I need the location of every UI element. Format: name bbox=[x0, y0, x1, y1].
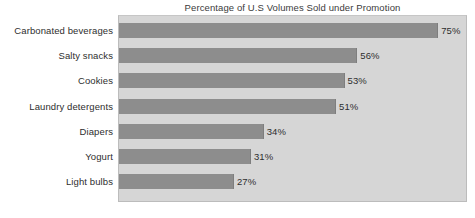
bar-value-label: 51% bbox=[339, 98, 358, 115]
bar bbox=[119, 48, 357, 63]
chart-row: Salty snacks56% bbox=[0, 47, 475, 64]
category-label: Yogurt bbox=[0, 148, 113, 165]
bar bbox=[119, 23, 438, 38]
bar bbox=[119, 124, 264, 139]
chart-row: Light bulbs27% bbox=[0, 173, 475, 190]
category-label: Salty snacks bbox=[0, 47, 113, 64]
bar bbox=[119, 149, 251, 164]
bar-value-label: 31% bbox=[254, 148, 273, 165]
bar bbox=[119, 73, 345, 88]
bar-value-label: 56% bbox=[360, 47, 379, 64]
chart-row: Cookies53% bbox=[0, 72, 475, 89]
bar-chart: Percentage of U.S Volumes Sold under Pro… bbox=[0, 0, 475, 218]
category-label: Diapers bbox=[0, 123, 113, 140]
bar bbox=[119, 99, 336, 114]
chart-row: Yogurt31% bbox=[0, 148, 475, 165]
bar-value-label: 27% bbox=[237, 173, 256, 190]
bar-value-label: 53% bbox=[348, 72, 367, 89]
chart-row: Laundry detergents51% bbox=[0, 98, 475, 115]
chart-row: Diapers34% bbox=[0, 123, 475, 140]
category-label: Laundry detergents bbox=[0, 98, 113, 115]
category-label: Cookies bbox=[0, 72, 113, 89]
category-label: Light bulbs bbox=[0, 173, 113, 190]
chart-row: Carbonated beverages75% bbox=[0, 22, 475, 39]
chart-title: Percentage of U.S Volumes Sold under Pro… bbox=[118, 2, 467, 14]
bar-value-label: 34% bbox=[267, 123, 286, 140]
bar-value-label: 75% bbox=[441, 22, 460, 39]
category-label: Carbonated beverages bbox=[0, 22, 113, 39]
bar bbox=[119, 174, 234, 189]
